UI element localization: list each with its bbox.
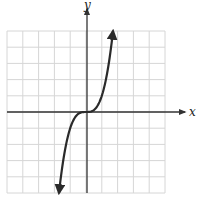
y-axis-label: y xyxy=(83,0,91,12)
function-graph: x y xyxy=(0,0,200,199)
x-axis-label: x xyxy=(189,105,196,119)
